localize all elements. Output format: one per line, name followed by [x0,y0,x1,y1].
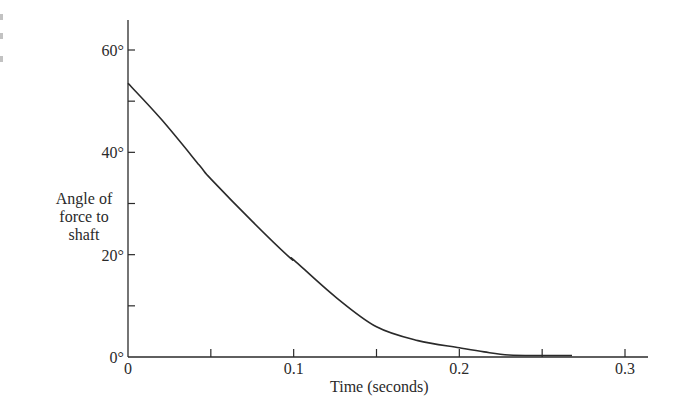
x-tick-label: 0.2 [449,360,469,377]
y-axis-title-line-1: Angle of [56,190,113,208]
angle-curve [128,83,572,355]
y-tick-label: 40° [102,144,124,161]
x-ticks: 00.10.20.3 [124,349,635,377]
y-tick-label: 20° [102,247,124,264]
x-tick-label: 0.3 [615,360,635,377]
x-tick-label: 0 [124,360,132,377]
y-tick-label: 60° [102,42,124,59]
axes [128,20,648,357]
y-axis-title-line-3: shaft [68,226,100,243]
y-axis-title-line-2: force to [59,208,108,225]
x-axis-title: Time (seconds) [330,378,429,396]
x-tick-label: 0.1 [284,360,304,377]
y-tick-label: 0° [110,349,124,366]
line-chart: 0°20°40°60° 00.10.20.3 Angle of force to… [0,0,682,419]
